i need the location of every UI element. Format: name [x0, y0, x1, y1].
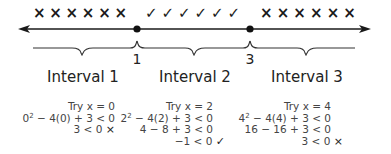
marks-interval-2: ✓ ✓ ✓ ✓ ✓ ✓	[145, 4, 240, 22]
result-line: 3 < 0 ×	[239, 136, 344, 148]
brace-interval-1	[33, 41, 137, 55]
point-1	[133, 25, 140, 32]
brace-interval-2	[137, 41, 250, 55]
check-mark-icon: ✓	[227, 4, 240, 22]
marks-interval-1: × × × × × ×	[33, 4, 127, 22]
interval-1-label: Interval 1	[47, 68, 119, 86]
x-mark-icon: ×	[310, 4, 323, 22]
x-mark-icon: ×	[98, 4, 111, 22]
point-3	[246, 25, 253, 32]
check-mark-icon: ✓	[211, 4, 224, 22]
x-mark-icon: ×	[66, 4, 79, 22]
marks-interval-3: × × × × × ×	[260, 4, 356, 22]
result-line: 3 < 0 ×	[23, 124, 116, 136]
x-mark-icon: ×	[277, 4, 290, 22]
interval-2-test: Try x = 2 22 − 4(2) + 3 < 0 4 − 8 + 3 < …	[121, 101, 226, 147]
x-mark-icon: ×	[343, 4, 356, 22]
check-mark-icon: ✓	[194, 4, 207, 22]
x-mark-icon: ×	[293, 4, 306, 22]
interval-1-test: Try x = 0 02 − 4(0) + 3 < 0 3 < 0 ×	[23, 101, 116, 136]
x-mark-icon: ×	[327, 4, 340, 22]
interval-3-test: Try x = 4 42 − 4(4) + 3 < 0 16 − 16 + 3 …	[239, 101, 344, 147]
result-line: −1 < 0 ✓	[121, 136, 226, 148]
x-mark-icon: ×	[334, 135, 343, 148]
tick-label-3: 3	[246, 51, 255, 67]
x-mark-icon: ×	[82, 4, 95, 22]
check-mark-icon: ✓	[145, 4, 158, 22]
x-mark-icon: ×	[33, 4, 46, 22]
tick-label-1: 1	[133, 51, 142, 67]
interval-2-label: Interval 2	[159, 68, 231, 86]
x-mark-icon: ×	[49, 4, 62, 22]
x-mark-icon: ×	[106, 123, 115, 136]
brace-interval-3	[250, 41, 355, 55]
check-mark-icon: ✓	[216, 135, 225, 148]
interval-3-label: Interval 3	[271, 68, 343, 86]
check-mark-icon: ✓	[161, 4, 174, 22]
x-mark-icon: ×	[114, 4, 127, 22]
check-mark-icon: ✓	[178, 4, 191, 22]
x-mark-icon: ×	[260, 4, 273, 22]
